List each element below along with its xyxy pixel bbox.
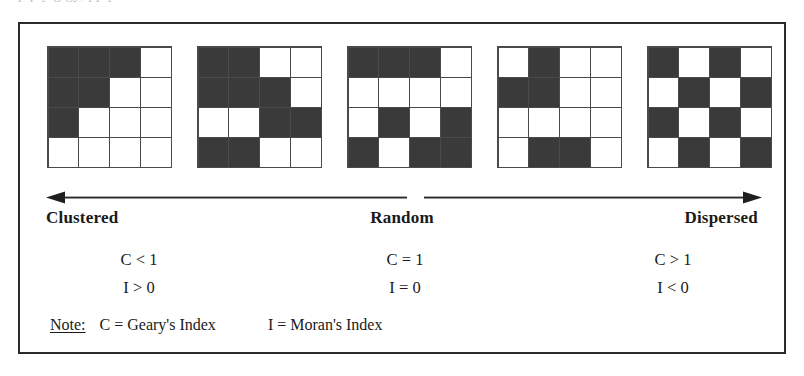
grid-cell: [228, 47, 260, 78]
grid-cell: [409, 47, 441, 78]
grid-cell: [198, 47, 230, 78]
arrow-shaft-right: [424, 197, 743, 199]
grid-cell: [198, 137, 230, 168]
grid-cell: [648, 47, 680, 78]
grid-cell: [109, 107, 141, 138]
grid-cell: [78, 47, 110, 78]
grid-cell: [678, 107, 710, 138]
grid-cell: [559, 77, 591, 108]
grid-cell: [378, 47, 410, 78]
grid-cell: [740, 107, 772, 138]
grid-cell: [348, 137, 380, 168]
grid-cell: [648, 137, 680, 168]
grid-cell: [140, 77, 172, 108]
grid-cell: [648, 77, 680, 108]
grid-cell: [498, 137, 530, 168]
grid-cell: [498, 107, 530, 138]
grid-cell: [709, 47, 741, 78]
arrow-head-left: [46, 192, 65, 204]
grid-cell: [678, 77, 710, 108]
grid-cell: [140, 107, 172, 138]
arrow-shaft-left: [64, 197, 407, 199]
grid-cell: [140, 137, 172, 168]
bleed-text: p p y g gy, pp p: [18, 0, 788, 3]
grid-cell: [440, 77, 472, 108]
grid-cell: [109, 47, 141, 78]
grid-cell: [409, 77, 441, 108]
grid-cell: [259, 137, 291, 168]
grid-cell: [228, 137, 260, 168]
dispersed-grid: [647, 46, 772, 168]
grid-cell: [259, 77, 291, 108]
grid-cell: [559, 107, 591, 138]
grid-cell: [498, 47, 530, 78]
grid-cell: [290, 107, 322, 138]
stats-clustered: C < 1 I > 0: [64, 246, 214, 302]
label-dispersed: Dispersed: [684, 208, 758, 228]
grid-cell: [78, 107, 110, 138]
grid-cell: [140, 47, 172, 78]
note-geary-legend: C = Geary's Index: [100, 316, 216, 333]
page-bleed-strip: p p y g gy, pp p: [0, 0, 804, 12]
grid-cell: [109, 137, 141, 168]
grid-cell: [709, 107, 741, 138]
grid-cell: [290, 77, 322, 108]
grid-cell: [348, 47, 380, 78]
random-grid: [347, 46, 472, 168]
grid-cell: [378, 77, 410, 108]
stat-geary-dispersed: C > 1: [598, 246, 748, 274]
grid-cell: [78, 77, 110, 108]
stat-geary-clustered: C < 1: [64, 246, 214, 274]
grid-cell: [740, 77, 772, 108]
figure-frame: Clustered Random Dispersed C < 1 I > 0 C…: [18, 22, 786, 354]
grid-cell: [590, 47, 622, 78]
clustered-mid-grid: [197, 46, 322, 168]
note-moran-legend: I = Moran's Index: [268, 316, 383, 333]
grid-cell: [740, 137, 772, 168]
grid-cell: [648, 107, 680, 138]
stats-random: C = 1 I = 0: [330, 246, 480, 302]
stat-moran-random: I = 0: [330, 274, 480, 302]
continuum-arrow: [20, 188, 784, 210]
grid-cell: [678, 137, 710, 168]
grid-cell: [440, 107, 472, 138]
grid-cell: [348, 77, 380, 108]
grid-cell: [48, 107, 80, 138]
grid-cell: [378, 107, 410, 138]
grid-cell: [559, 137, 591, 168]
grid-cell: [378, 137, 410, 168]
grid-cell: [678, 47, 710, 78]
grid-cell: [409, 137, 441, 168]
grid-cell: [440, 137, 472, 168]
grid-cell: [290, 47, 322, 78]
grid-cell: [409, 107, 441, 138]
grid-cell: [528, 107, 560, 138]
grid-cell: [590, 77, 622, 108]
label-random: Random: [20, 208, 784, 228]
stat-moran-clustered: I > 0: [64, 274, 214, 302]
note-label: Note:: [50, 316, 86, 333]
axis-labels: Clustered Random Dispersed: [20, 208, 784, 234]
grid-row: [20, 24, 784, 174]
grid-cell: [198, 107, 230, 138]
note-row: Note:C = Geary's IndexI = Moran's Index: [50, 316, 382, 334]
grid-cell: [48, 77, 80, 108]
grid-cell: [109, 77, 141, 108]
grid-cell: [709, 137, 741, 168]
grid-cell: [259, 107, 291, 138]
grid-cell: [528, 137, 560, 168]
clustered-grid: [47, 46, 172, 168]
grid-cell: [528, 47, 560, 78]
grid-cell: [498, 77, 530, 108]
grid-cell: [740, 47, 772, 78]
grid-cell: [528, 77, 560, 108]
grid-cell: [709, 77, 741, 108]
grid-cell: [228, 77, 260, 108]
grid-cell: [78, 137, 110, 168]
grid-cell: [290, 137, 322, 168]
grid-cell: [559, 47, 591, 78]
grid-cell: [348, 107, 380, 138]
grid-cell: [440, 47, 472, 78]
grid-cell: [48, 47, 80, 78]
grid-cell: [590, 107, 622, 138]
